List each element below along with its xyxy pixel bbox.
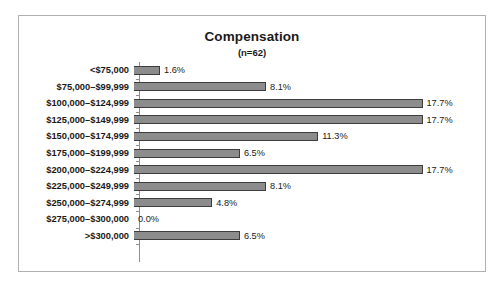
- category-label: $275,000–$300,000: [19, 214, 134, 224]
- chart-subtitle: (n=62): [19, 46, 485, 59]
- bar[interactable]: [134, 132, 318, 141]
- bar-track: 8.1%: [134, 79, 487, 96]
- bar-value-label: 8.1%: [266, 181, 291, 191]
- bar[interactable]: [134, 115, 423, 124]
- bar-track: 17.7%: [134, 112, 487, 129]
- bar-row: $275,000–$300,0000.0%: [19, 211, 487, 228]
- category-label: <$75,000: [19, 65, 134, 75]
- category-label: $225,000–$249,999: [19, 181, 134, 191]
- bar-value-label: 8.1%: [266, 82, 291, 92]
- bar[interactable]: [134, 231, 240, 240]
- bar-value-label: 11.3%: [318, 131, 347, 141]
- bar-chart-plot: <$75,0001.6%$75,000–$99,9998.1%$100,000–…: [19, 62, 487, 262]
- bar-value-label: 17.7%: [423, 98, 453, 108]
- bar-value-label: 0.0%: [134, 214, 159, 224]
- bar-track: 8.1%: [134, 178, 487, 195]
- bar-track: 0.0%: [134, 211, 487, 228]
- page-title: Compensation: [19, 29, 485, 45]
- bar-row: $100,000–$124,99917.7%: [19, 95, 487, 112]
- bar[interactable]: [134, 82, 266, 91]
- bar-track: 6.5%: [134, 145, 487, 162]
- bar-row: $125,000–$149,99917.7%: [19, 112, 487, 129]
- bar[interactable]: [134, 66, 160, 75]
- bar[interactable]: [134, 182, 266, 191]
- bar[interactable]: [134, 149, 240, 158]
- bar-value-label: 4.8%: [212, 198, 237, 208]
- bar-value-label: 1.6%: [160, 65, 185, 75]
- chart-frame: Compensation (n=62) <$75,0001.6%$75,000–…: [18, 15, 486, 272]
- bar-row: $150,000–$174,99911.3%: [19, 128, 487, 145]
- axis-tick: [136, 244, 139, 245]
- bar-track: 11.3%: [134, 128, 487, 145]
- bar[interactable]: [134, 99, 423, 108]
- category-label: $75,000–$99,999: [19, 82, 134, 92]
- bar-track: 6.5%: [134, 227, 487, 244]
- category-label: $200,000–$224,999: [19, 165, 134, 175]
- bar-value-label: 6.5%: [240, 231, 265, 241]
- bar-row: $225,000–$249,9998.1%: [19, 178, 487, 195]
- bar-row: <$75,0001.6%: [19, 62, 487, 79]
- bar-row: $200,000–$224,99917.7%: [19, 161, 487, 178]
- bar-value-label: 17.7%: [423, 115, 453, 125]
- category-label: $250,000–$274,999: [19, 198, 134, 208]
- bar-row: $175,000–$199,9996.5%: [19, 145, 487, 162]
- chart-title-block: Compensation (n=62): [19, 29, 485, 59]
- category-label: >$300,000: [19, 231, 134, 241]
- bar-row: $250,000–$274,9994.8%: [19, 194, 487, 211]
- bar-row: $75,000–$99,9998.1%: [19, 79, 487, 96]
- bar-track: 4.8%: [134, 194, 487, 211]
- bar-track: 1.6%: [134, 62, 487, 79]
- category-label: $125,000–$149,999: [19, 115, 134, 125]
- category-label: $150,000–$174,999: [19, 131, 134, 141]
- bar-track: 17.7%: [134, 95, 487, 112]
- category-label: $100,000–$124,999: [19, 98, 134, 108]
- category-label: $175,000–$199,999: [19, 148, 134, 158]
- bar[interactable]: [134, 165, 423, 174]
- bar[interactable]: [134, 198, 212, 207]
- bar-track: 17.7%: [134, 161, 487, 178]
- bar-value-label: 17.7%: [423, 165, 453, 175]
- bar-value-label: 6.5%: [240, 148, 265, 158]
- bar-row: >$300,0006.5%: [19, 227, 487, 244]
